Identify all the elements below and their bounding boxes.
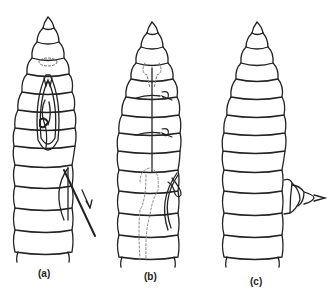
figure: (a) (b) (c)	[0, 0, 336, 292]
panel-a-worm	[13, 17, 95, 262]
panel-c-label: (c)	[250, 276, 262, 287]
panel-b-worm	[117, 22, 181, 267]
panel-c-worm	[222, 22, 325, 267]
worm-diagram	[0, 0, 336, 292]
panel-a-label: (a)	[38, 268, 50, 279]
panel-b-label: (b)	[144, 271, 157, 282]
